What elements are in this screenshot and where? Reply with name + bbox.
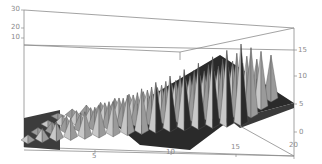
right-axis-tick-10: 10 [298,73,307,80]
surface [21,44,294,150]
right-axis-tick-5: 5 [299,101,303,108]
x-axis-tick-5: 5 [92,153,96,160]
right-axis-tick-0: 0 [299,129,303,136]
x-axis-tick-20: 20 [289,142,298,149]
x-axis-tick-10: 10 [166,149,175,156]
x-axis-line [24,150,294,156]
left-axis-tick-30: 30 [11,6,20,13]
plot-area [0,0,322,164]
x-axis-tick-15: 15 [231,144,240,151]
ridge-face [271,55,278,102]
right-axis-tick-15: 15 [298,47,307,54]
left-axis-tick-20: 20 [11,24,20,31]
left-axis-tick-10: 10 [11,34,20,41]
